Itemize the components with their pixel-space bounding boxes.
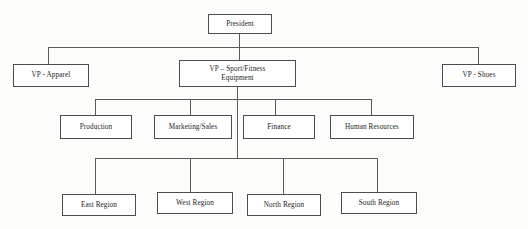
node-president-label: President: [224, 20, 256, 28]
node-production[interactable]: Production: [60, 115, 132, 139]
node-vp-apparel-label: VP - Apparel: [30, 71, 73, 79]
connector-drop-south-region: [377, 158, 378, 194]
node-vp-sport-fitness-label: VP – Sport/Fitness Equipment: [208, 65, 268, 82]
connector-drop-production: [95, 99, 96, 115]
connector-level1-bus: [48, 47, 479, 48]
connector-drop-north-region: [283, 158, 284, 194]
node-north-region-label: North Region: [262, 201, 307, 209]
connector-drop-vp-shoes: [478, 47, 479, 64]
connector-drop-west-region: [190, 158, 191, 194]
node-west-region[interactable]: West Region: [157, 192, 233, 214]
node-west-region-label: West Region: [174, 199, 216, 207]
connector-vp-sport-trunk: [237, 87, 238, 159]
node-vp-apparel[interactable]: VP - Apparel: [13, 64, 89, 87]
connector-drop-human-resources: [371, 99, 372, 115]
node-president[interactable]: President: [208, 14, 272, 34]
node-east-region-label: East Region: [79, 201, 119, 209]
node-marketing-sales-label: Marketing/Sales: [167, 123, 220, 131]
node-human-resources[interactable]: Human Resources: [330, 115, 414, 139]
node-production-label: Production: [78, 123, 115, 131]
connector-drop-vp-sport-fitness: [239, 47, 240, 60]
node-human-resources-label: Human Resources: [343, 123, 401, 131]
connector-drop-east-region: [95, 158, 96, 194]
node-finance-label: Finance: [265, 123, 292, 131]
connector-drop-vp-apparel: [48, 47, 49, 64]
node-north-region[interactable]: North Region: [247, 194, 321, 216]
node-south-region-label: South Region: [357, 199, 402, 207]
node-south-region[interactable]: South Region: [341, 192, 417, 214]
connector-drop-marketing-sales: [190, 99, 191, 115]
node-vp-sport-fitness[interactable]: VP – Sport/Fitness Equipment: [179, 60, 296, 87]
node-finance[interactable]: Finance: [243, 115, 315, 139]
node-marketing-sales[interactable]: Marketing/Sales: [154, 115, 232, 139]
connector-president-stem: [239, 34, 240, 48]
connector-level2-bus: [95, 99, 372, 100]
node-east-region[interactable]: East Region: [62, 194, 136, 216]
node-vp-shoes[interactable]: VP - Shoes: [442, 64, 516, 87]
connector-level3-bus: [95, 158, 378, 159]
connector-drop-finance: [275, 99, 276, 115]
org-chart-canvas: President VP - Apparel VP – Sport/Fitnes…: [0, 0, 528, 229]
node-vp-shoes-label: VP - Shoes: [460, 71, 497, 79]
